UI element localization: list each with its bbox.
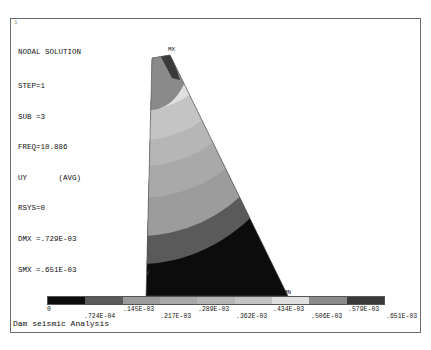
legend-band-8 bbox=[347, 297, 384, 304]
legend-band-5 bbox=[235, 297, 272, 304]
legend-tick: .506E-03 bbox=[311, 313, 342, 320]
legend-band-2 bbox=[123, 297, 160, 304]
legend-tick: .579E-03 bbox=[348, 306, 379, 313]
legend-band-6 bbox=[272, 297, 309, 304]
max-marker-label: MX bbox=[168, 46, 175, 53]
legend-tick: .651E-03 bbox=[386, 313, 417, 320]
min-marker-label: MN bbox=[284, 289, 291, 296]
legend-tick: .362E-03 bbox=[236, 313, 267, 320]
legend-band-4 bbox=[197, 297, 234, 304]
plot-caption: Dam seismic Analysis bbox=[13, 319, 109, 328]
legend-tick: 0 bbox=[47, 306, 51, 313]
legend-tick: .434E-03 bbox=[273, 306, 304, 313]
legend-tick: .289E-03 bbox=[198, 306, 229, 313]
y-axis-triad-label: Y bbox=[146, 270, 150, 277]
legend-band-0 bbox=[48, 297, 85, 304]
legend-band-7 bbox=[309, 297, 346, 304]
legend-tick: .145E-03 bbox=[123, 306, 154, 313]
legend-tick: .217E-03 bbox=[160, 313, 191, 320]
legend-band-1 bbox=[85, 297, 122, 304]
legend-band-3 bbox=[160, 297, 197, 304]
contour-legend-bar bbox=[47, 296, 385, 305]
